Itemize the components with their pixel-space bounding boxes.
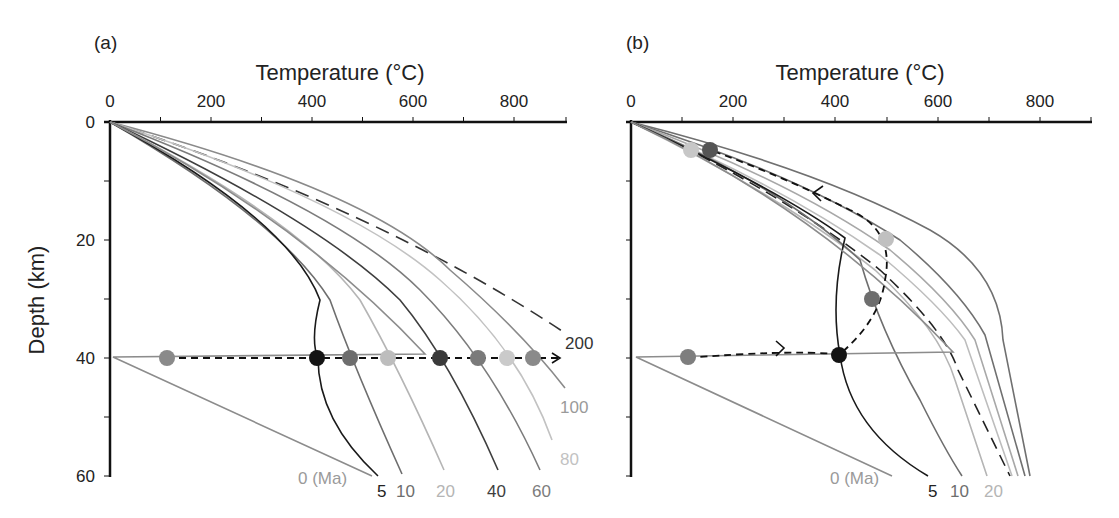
label-b-0ma: 0 (Ma) xyxy=(830,469,879,488)
label-60ma: 60 xyxy=(532,482,551,501)
panel-b-ticks xyxy=(626,117,1091,476)
panel-b-curve-labels: 0 (Ma) 5 10 20 xyxy=(830,469,1003,501)
panel-a-x-axis-title: Temperature (°C) xyxy=(256,60,425,85)
panel-a-ytick-60: 60 xyxy=(76,467,95,486)
panel-b-xtick-200: 200 xyxy=(719,92,747,111)
label-10ma: 10 xyxy=(396,482,415,501)
marker-b-20ma xyxy=(878,231,894,247)
panel-b-geotherms xyxy=(631,122,1030,476)
panel-a: (a) Temperature (°C) 0 200 400 600 800 0… xyxy=(24,32,593,501)
marker-20ma xyxy=(380,350,396,366)
geotherm-0ma xyxy=(110,122,425,476)
panel-b-pt-path xyxy=(688,150,887,358)
label-0ma: 0 (Ma) xyxy=(298,469,347,488)
marker-b-5ma xyxy=(831,347,847,363)
marker-10ma xyxy=(342,350,358,366)
label-80ma: 80 xyxy=(560,450,579,469)
label-5ma: 5 xyxy=(377,482,386,501)
panel-b-xtick-600: 600 xyxy=(924,92,952,111)
panel-b-xtick-0: 0 xyxy=(626,92,635,111)
label-40ma: 40 xyxy=(487,482,506,501)
label-b-20ma: 20 xyxy=(984,482,1003,501)
panel-b-path-arrow-right xyxy=(776,341,784,356)
marker-40ma xyxy=(432,350,448,366)
thermal-profile-figure: (a) Temperature (°C) 0 200 400 600 800 0… xyxy=(0,0,1119,518)
label-b-5ma: 5 xyxy=(928,482,937,501)
panel-b-x-axis-title: Temperature (°C) xyxy=(776,60,945,85)
panel-a-xtick-200: 200 xyxy=(197,92,225,111)
panel-a-ytick-40: 40 xyxy=(76,349,95,368)
label-20ma: 20 xyxy=(436,482,455,501)
marker-b-0ma xyxy=(680,349,696,365)
marker-b-surface-light xyxy=(683,142,699,158)
marker-80ma xyxy=(499,350,515,366)
label-100ma: 100 xyxy=(560,398,588,417)
marker-0ma xyxy=(159,350,175,366)
panel-a-xtick-600: 600 xyxy=(399,92,427,111)
marker-b-10ma xyxy=(864,291,880,307)
marker-b-surface-dark xyxy=(702,142,718,158)
panel-a-label: (a) xyxy=(94,32,117,53)
panel-a-xtick-800: 800 xyxy=(500,92,528,111)
panel-a-xtick-0: 0 xyxy=(105,92,114,111)
label-200ma: 200 xyxy=(565,334,593,353)
geotherm-b-20ma xyxy=(631,122,987,476)
panel-a-geotherms xyxy=(110,122,565,476)
panel-a-ytick-20: 20 xyxy=(76,231,95,250)
panel-a-xtick-400: 400 xyxy=(298,92,326,111)
label-b-10ma: 10 xyxy=(950,482,969,501)
geotherm-60ma xyxy=(110,122,540,470)
geotherm-b-20ma-dark xyxy=(631,122,1012,476)
geotherm-b-steady-dashed xyxy=(631,122,1010,476)
panel-a-ytick-0: 0 xyxy=(86,113,95,132)
panel-b-xtick-400: 400 xyxy=(821,92,849,111)
panel-b: (b) Temperature (°C) 0 200 400 600 800 xyxy=(626,32,1092,501)
geotherm-b-100ma xyxy=(631,122,1030,476)
geotherm-5ma xyxy=(110,122,378,476)
panel-b-label: (b) xyxy=(626,32,649,53)
geotherm-b-60ma xyxy=(631,122,1025,476)
geotherm-80ma xyxy=(110,122,552,440)
geotherm-b-10ma xyxy=(631,122,962,476)
marker-60ma xyxy=(470,350,486,366)
marker-100ma xyxy=(525,350,541,366)
marker-5ma xyxy=(309,350,325,366)
geotherm-40ma xyxy=(110,122,498,470)
panel-b-xtick-800: 800 xyxy=(1026,92,1054,111)
y-axis-title: Depth (km) xyxy=(24,246,49,355)
